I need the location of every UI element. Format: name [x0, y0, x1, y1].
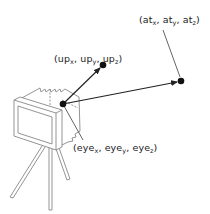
paren: ): [154, 142, 158, 153]
eye-z-label: eye: [132, 142, 150, 153]
up-vector-arrow: [63, 68, 100, 104]
vectors: [63, 30, 180, 140]
camera-lookat-diagram: [0, 0, 210, 214]
up-label: (upx, upy, upz): [54, 54, 122, 66]
at-label-leader: [163, 30, 180, 77]
up-x-label: up: [58, 53, 70, 64]
at-y-label: at: [163, 14, 173, 25]
camera-on-tripod-icon: [10, 88, 80, 210]
eye-y-label: eye: [105, 142, 123, 153]
at-z-label: at: [183, 14, 193, 25]
at-label: (atx, aty, atz): [139, 15, 200, 27]
at-point-dot: [178, 78, 185, 85]
eye-label: (eyex, eyey, eyez): [73, 143, 157, 155]
view-direction-arrow: [63, 82, 177, 104]
paren: ): [196, 14, 200, 25]
tripod-icon: [10, 145, 70, 210]
up-z-label: up: [103, 53, 115, 64]
eye-point-dot: [60, 101, 67, 108]
at-x-label: at: [143, 14, 153, 25]
up-y-label: up: [80, 53, 92, 64]
paren: ): [119, 53, 123, 64]
eye-x-label: eye: [77, 142, 95, 153]
